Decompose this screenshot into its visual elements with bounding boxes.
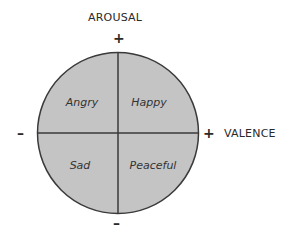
arousal-negative-sign: – bbox=[113, 216, 120, 230]
valence-label: VALENCE bbox=[224, 127, 276, 140]
arousal-label: AROUSAL bbox=[88, 11, 142, 24]
valence-negative-sign: – bbox=[17, 126, 24, 140]
quadrant-peaceful: Peaceful bbox=[130, 159, 177, 172]
emotion-circle-diagram bbox=[0, 0, 285, 236]
quadrant-sad: Sad bbox=[70, 159, 91, 172]
valence-positive-sign: + bbox=[203, 126, 215, 140]
quadrant-happy: Happy bbox=[131, 96, 167, 109]
quadrant-angry: Angry bbox=[66, 96, 99, 109]
arousal-positive-sign: + bbox=[113, 31, 125, 45]
